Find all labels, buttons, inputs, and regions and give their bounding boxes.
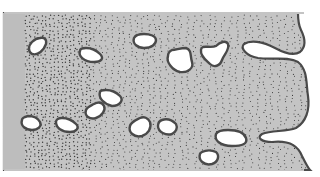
- void-11: [158, 119, 177, 134]
- stippled-material-diagram: [0, 0, 320, 177]
- void-13: [200, 151, 218, 165]
- left-edge-strip: [4, 13, 25, 170]
- void-6: [22, 116, 41, 130]
- left-edge: [3, 13, 5, 170]
- void-3: [134, 34, 156, 48]
- void-4: [168, 48, 193, 72]
- top-edge: [4, 12, 304, 14]
- diagram-canvas: [0, 0, 320, 177]
- void-12: [216, 130, 247, 146]
